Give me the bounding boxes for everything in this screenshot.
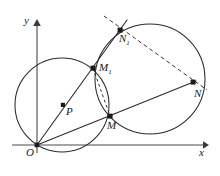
point-label-M: M xyxy=(107,120,116,131)
point-label-O: O xyxy=(26,147,34,158)
point-marker-M xyxy=(108,114,113,119)
y-axis-arrowhead xyxy=(33,19,41,26)
point-label-N: N xyxy=(194,88,201,99)
axes-group xyxy=(12,19,209,153)
line-N1-N xyxy=(104,16,207,90)
geometry-figure: y x O P M1 N1 M N xyxy=(0,0,220,176)
rays-group xyxy=(37,20,196,145)
point-marker-O xyxy=(35,143,40,148)
point-label-N1-subscript: 1 xyxy=(126,39,129,46)
point-label-P: P xyxy=(66,106,73,117)
point-marker-N xyxy=(191,80,196,85)
point-label-M1: M1 xyxy=(99,62,112,76)
axis-label-x: x xyxy=(199,147,204,158)
point-marker-P xyxy=(61,103,65,107)
point-marker-M1 xyxy=(91,66,96,71)
point-label-M1-subscript: 1 xyxy=(108,68,111,75)
axis-label-y: y xyxy=(24,15,29,26)
ray-O-N xyxy=(37,81,196,145)
point-label-N1: N1 xyxy=(119,33,130,47)
point-label-M1-base: M xyxy=(99,61,108,73)
